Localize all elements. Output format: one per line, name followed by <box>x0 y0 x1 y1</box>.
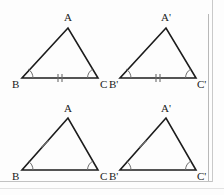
triangle-bottom-right-svg <box>0 0 212 195</box>
vertex-label-a-prime-2: A' <box>161 103 171 114</box>
geometry-diagram-page: A B C A' B' C' A B C <box>0 0 224 195</box>
side-tick-ab-prime-1 <box>140 141 147 148</box>
triangle-outline-abc-prime-2 <box>120 118 196 170</box>
panel-frame-bottom <box>0 181 212 182</box>
panel-frame-right-outer <box>212 0 213 182</box>
panel-frame-right-inner <box>208 14 209 182</box>
angle-arc-c-prime-2 <box>186 161 191 170</box>
panel-frame-bottom-secondary <box>0 188 224 189</box>
